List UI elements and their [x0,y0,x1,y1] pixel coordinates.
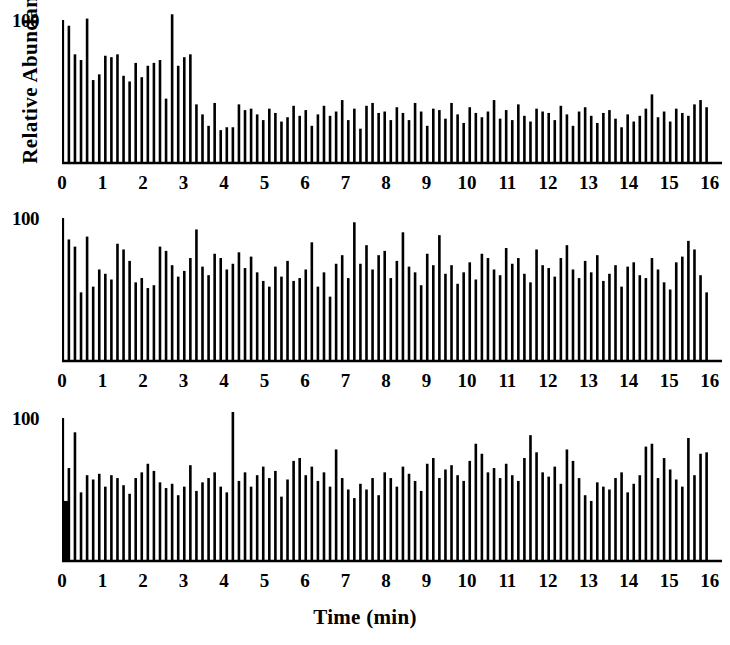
chart-peak [572,126,575,163]
chart-peak [219,487,222,561]
chart-peak [699,454,702,561]
chart-peak [104,487,107,561]
x-tick-label: 9 [422,370,432,392]
chart-peak [566,114,569,163]
chart-peak [262,467,265,561]
chart-peak [104,274,107,361]
x-tick-label: 16 [700,370,719,392]
chart-peak [68,26,71,163]
chart-peak [560,258,563,361]
chart-peak [304,475,307,561]
chart-peak [389,278,392,361]
chart-peak [547,268,550,361]
chart-peak [402,113,405,163]
chart-peak [547,477,550,561]
chart-peak [177,66,180,163]
chart-peak [232,264,235,361]
chart-peak [523,274,526,361]
x-tick-label: 0 [57,172,67,194]
chart-peak [359,264,362,361]
chart-peak [122,249,125,361]
x-tick-label: 5 [260,172,270,194]
chart-peak [134,478,137,561]
chart-peak [614,265,617,361]
chart-peak [335,264,338,361]
chart-peak [596,123,599,163]
chart-peak [560,106,563,163]
chart-peak [675,109,678,163]
chart-peak [244,472,247,561]
x-tick-label: 7 [341,570,351,592]
chart-peak [396,107,399,163]
chart-peak [110,279,113,361]
chart-peak [226,127,229,163]
chart-peak [177,495,180,561]
chart-peak [584,107,587,163]
chart-peak [98,269,101,361]
chart-peak [292,106,295,163]
chart-peak [74,247,77,361]
chart-peak [620,472,623,561]
x-tick-label: 3 [179,570,189,592]
chart-peak [250,109,253,163]
chart-peak [347,278,350,361]
chart-peak [116,244,119,361]
chart-peak [645,278,648,361]
chart-peak [438,110,441,163]
chart-peak [298,458,301,561]
chart-peak [383,112,386,163]
chart-peak [505,464,508,561]
chart-peak [414,103,417,163]
chart-peak [189,54,192,163]
chart-peak [341,478,344,561]
x-tick-label: 14 [619,570,638,592]
chart-peak [438,478,441,561]
chart-peak [608,110,611,163]
chart-peak [590,272,593,361]
chart-peak [80,292,83,361]
chart-peak [468,107,471,163]
chart-peak [487,258,490,361]
x-tick-label: 2 [138,370,148,392]
chart-peak [292,461,295,561]
chart-peak [304,269,307,361]
chart-peak [183,57,186,163]
x-tick-label: 0 [57,370,67,392]
chart-peak [262,281,265,361]
chart-peak [365,245,368,361]
chart-peak [353,222,356,361]
chart-peak [456,475,459,561]
chart-peak [675,479,678,561]
chart-peak [201,267,204,361]
chart-peak [159,482,162,561]
chart-peak [481,117,484,163]
chart-peak [377,113,380,163]
chart-peak [505,110,508,163]
chart-peak [335,449,338,561]
chart-peak [110,57,113,163]
chart-peak [456,114,459,163]
unresolved-peak-block [62,501,70,561]
x-tick-label: 2 [138,570,148,592]
chart-peak [274,113,277,163]
chart-peak [323,472,326,561]
chart-peak [128,494,131,561]
chart-peak [560,484,563,561]
chart-peak [286,479,289,561]
chart-peak [74,432,77,561]
chart-peak [523,116,526,163]
chart-peak [432,265,435,361]
chart-peak [262,120,265,163]
chart-peak [462,481,465,561]
chart-peak [171,484,174,561]
chart-peak [541,265,544,361]
chart-peak [481,254,484,361]
x-tick-label: 10 [457,370,476,392]
chart-peak [317,481,320,561]
chart-peak [311,467,314,561]
chart-peak [487,112,490,163]
chart-peak [608,274,611,361]
chart-peak [681,487,684,561]
chart-peak [177,277,180,361]
chart-peak [608,490,611,562]
